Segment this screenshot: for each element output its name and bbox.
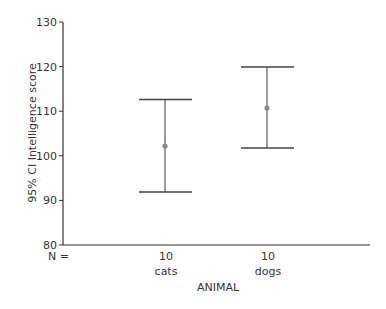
- y-tick-90: 90: [43, 194, 57, 207]
- y-tick-110: 110: [36, 105, 57, 118]
- n-label: N =: [48, 250, 69, 263]
- y-tick-130: 130: [36, 16, 57, 29]
- y-tick-labels: 80 90 100 110 120 130: [36, 16, 57, 252]
- category-cats: cats: [155, 265, 178, 278]
- x-axis-label: ANIMAL: [197, 281, 240, 294]
- n-cats: 10: [159, 250, 173, 263]
- mean-marker-dogs: [264, 105, 269, 110]
- y-tick-100: 100: [36, 150, 57, 163]
- y-tick-120: 120: [36, 61, 57, 74]
- mean-marker-cats: [162, 143, 167, 148]
- errorbar-chart: 80 90 100 110 120 130 95% CI Intelligenc…: [0, 0, 386, 309]
- y-axis-label: 95% CI Intelligence score: [26, 63, 39, 203]
- n-dogs: 10: [261, 250, 275, 263]
- category-dogs: dogs: [255, 265, 282, 278]
